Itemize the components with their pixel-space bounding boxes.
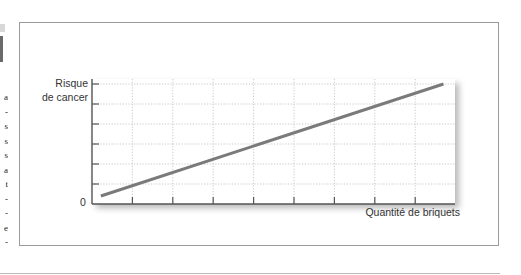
- y-axis-label: Risque de cancer: [30, 76, 88, 104]
- y-axis-label-line-1: Risque: [30, 76, 88, 90]
- x-axis-label: Quantité de briquets: [340, 206, 460, 218]
- y-origin-label: 0: [80, 196, 86, 208]
- page-divider: [0, 273, 500, 274]
- line-chart: [0, 0, 521, 275]
- y-axis-label-line-2: de cancer: [30, 90, 88, 104]
